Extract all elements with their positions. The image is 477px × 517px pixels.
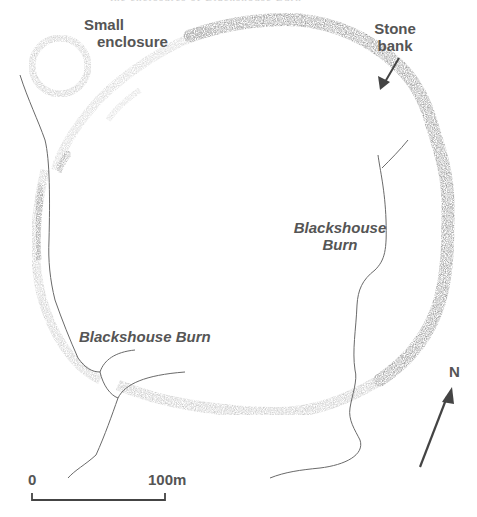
- label-small-enclosure-line2: enclosure: [84, 33, 154, 50]
- north-label: N: [449, 363, 460, 380]
- label-small-enclosure: Small enclosure: [84, 16, 154, 50]
- stream-confluence: [100, 372, 118, 398]
- label-blackshouse-burn-southwest: Blackshouse Burn: [79, 328, 211, 345]
- scale-bar-start-label: 0: [28, 471, 36, 488]
- label-burn-east-line1: Blackshouse: [290, 219, 390, 236]
- linking-bank: [55, 38, 190, 170]
- label-burn-east-line2: Burn: [290, 236, 390, 253]
- label-small-enclosure-line1: Small: [84, 16, 154, 33]
- label-stone-bank-line2: bank: [370, 37, 420, 54]
- site-plan-drawing: [0, 0, 477, 517]
- stream-branch-north: [100, 350, 135, 372]
- label-stone-bank: Stone bank: [370, 20, 420, 54]
- label-blackshouse-burn-east: Blackshouse Burn: [290, 219, 390, 253]
- streams: [20, 75, 408, 478]
- label-stone-bank-line1: Stone: [370, 20, 420, 37]
- scale-bar-end-label: 100m: [148, 471, 186, 488]
- scale-bar: [32, 493, 165, 500]
- stream-south-outflow: [68, 398, 118, 478]
- site-plan: the enclosures of Blackshouse Burn: [0, 0, 477, 517]
- small-enclosure-ring: [32, 38, 88, 94]
- north-arrow-icon: [420, 387, 454, 467]
- stream-east: [270, 140, 408, 478]
